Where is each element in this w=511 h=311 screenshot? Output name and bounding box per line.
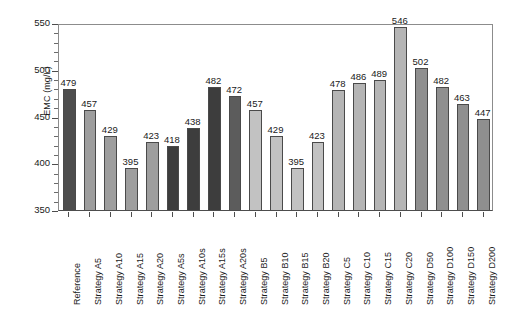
bar-value-label: 489 — [366, 68, 392, 79]
x-tick — [255, 212, 256, 217]
bar-value-label: 429 — [97, 124, 123, 135]
y-tick-label: 550 — [28, 17, 50, 28]
y-major-tick — [52, 211, 58, 212]
emc-bar-chart: EMC (mg/L) 350400450500550 4794574293954… — [0, 0, 511, 311]
bar-value-label: 457 — [242, 98, 268, 109]
bar — [208, 87, 221, 210]
x-tick-label: Reference — [72, 263, 82, 305]
x-tick — [338, 212, 339, 217]
bar-value-label: 418 — [159, 134, 185, 145]
bar-value-label: 429 — [263, 124, 289, 135]
bar-value-label: 447 — [470, 107, 496, 118]
x-tick-label: Strategy B20 — [321, 252, 331, 305]
bar-value-label: 472 — [221, 84, 247, 95]
x-tick-label: Strategy A15s — [217, 248, 227, 305]
bar — [477, 119, 490, 210]
bar — [436, 87, 449, 210]
bar-value-label: 546 — [387, 15, 413, 26]
x-tick-label: Strategy C20 — [404, 252, 414, 305]
x-tick-label: Strategy A20s — [238, 248, 248, 305]
bar-value-label: 457 — [76, 98, 102, 109]
x-tick — [358, 212, 359, 217]
x-tick-label: Strategy A5 — [93, 258, 103, 305]
bar-value-label: 395 — [283, 156, 309, 167]
bar — [187, 128, 200, 210]
bar — [146, 142, 159, 210]
x-tick — [68, 212, 69, 217]
bar — [332, 90, 345, 210]
bar-value-label: 438 — [180, 116, 206, 127]
x-tick — [193, 212, 194, 217]
x-tick — [462, 212, 463, 217]
x-tick — [110, 212, 111, 217]
bar — [374, 80, 387, 210]
bar — [457, 104, 470, 210]
bar-value-label: 479 — [55, 77, 81, 88]
y-axis-title: EMC (mg/L) — [42, 46, 52, 136]
bar — [249, 110, 262, 210]
x-tick-label: Strategy B15 — [300, 252, 310, 305]
bar — [312, 142, 325, 210]
x-tick — [89, 212, 90, 217]
bar — [167, 146, 180, 210]
y-tick-label: 350 — [28, 204, 50, 215]
x-tick-label: Strategy D150 — [466, 247, 476, 305]
bar — [63, 89, 76, 210]
bar — [353, 83, 366, 210]
bar — [104, 136, 117, 210]
bar-value-label: 463 — [449, 92, 475, 103]
x-tick-label: Strategy C5 — [342, 257, 352, 305]
x-tick-label: Strategy A15 — [135, 253, 145, 305]
bar — [270, 136, 283, 210]
bar — [291, 168, 304, 210]
x-tick — [276, 212, 277, 217]
x-tick-label: Strategy D100 — [445, 247, 455, 305]
bar-value-label: 482 — [428, 75, 454, 86]
x-tick-label: Strategy D50 — [425, 252, 435, 305]
x-tick — [172, 212, 173, 217]
bar-value-label: 395 — [118, 156, 144, 167]
x-tick — [400, 212, 401, 217]
y-tick-label: 400 — [28, 157, 50, 168]
x-tick — [213, 212, 214, 217]
plot-area — [58, 24, 493, 211]
x-tick-label: Strategy C15 — [383, 252, 393, 305]
x-tick — [131, 212, 132, 217]
x-tick — [296, 212, 297, 217]
y-tick-label: 450 — [28, 111, 50, 122]
bar — [394, 27, 407, 210]
x-tick-label: Strategy D200 — [487, 247, 497, 305]
x-tick — [151, 212, 152, 217]
x-tick — [379, 212, 380, 217]
x-tick-label: Strategy A10s — [197, 248, 207, 305]
x-tick — [483, 212, 484, 217]
x-tick-label: Strategy B10 — [280, 252, 290, 305]
bar-value-label: 502 — [408, 56, 434, 67]
bar-value-label: 423 — [304, 130, 330, 141]
x-tick — [421, 212, 422, 217]
x-tick-label: Strategy A10 — [114, 253, 124, 305]
bar — [125, 168, 138, 210]
x-tick-label: Strategy A20 — [155, 253, 165, 305]
x-tick-label: Strategy B5 — [259, 257, 269, 305]
x-tick-label: Strategy A5s — [176, 253, 186, 305]
bar — [415, 68, 428, 210]
x-tick — [317, 212, 318, 217]
y-tick-label: 500 — [28, 64, 50, 75]
x-tick — [441, 212, 442, 217]
x-tick-label: Strategy C10 — [362, 252, 372, 305]
bar — [84, 110, 97, 210]
x-tick — [234, 212, 235, 217]
bar — [229, 96, 242, 210]
